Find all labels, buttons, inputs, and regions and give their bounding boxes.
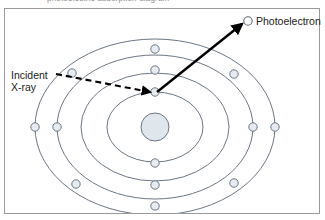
electron-shell4-lower-left bbox=[72, 180, 80, 188]
incident-xray-arrow bbox=[56, 74, 150, 92]
incident-xray-label-line1: Incident bbox=[11, 69, 48, 81]
electron-shell3-right bbox=[249, 123, 257, 131]
incident-xray-label-line2: X-ray bbox=[11, 81, 48, 93]
electron-shell4-upper-right bbox=[230, 70, 238, 78]
nucleus bbox=[141, 113, 169, 141]
photoelectron-label: Photoelectron bbox=[256, 15, 321, 27]
incident-xray-label: Incident X-ray bbox=[11, 69, 48, 93]
electron-shell2-bottom bbox=[151, 159, 159, 167]
electron-shell4-top bbox=[151, 45, 159, 53]
electron-shell4-left bbox=[31, 123, 39, 131]
photoelectric-effect-diagram bbox=[0, 0, 325, 220]
electron-shell4-right bbox=[271, 123, 279, 131]
electron-shell3-bottom bbox=[151, 181, 159, 189]
electron-shell4-bottom bbox=[151, 202, 159, 210]
electron-shell3-top bbox=[151, 66, 159, 74]
electron-shell4-lower-right bbox=[230, 179, 238, 187]
photoelectron-marker bbox=[244, 17, 252, 25]
electron-shell3-left bbox=[53, 123, 61, 131]
